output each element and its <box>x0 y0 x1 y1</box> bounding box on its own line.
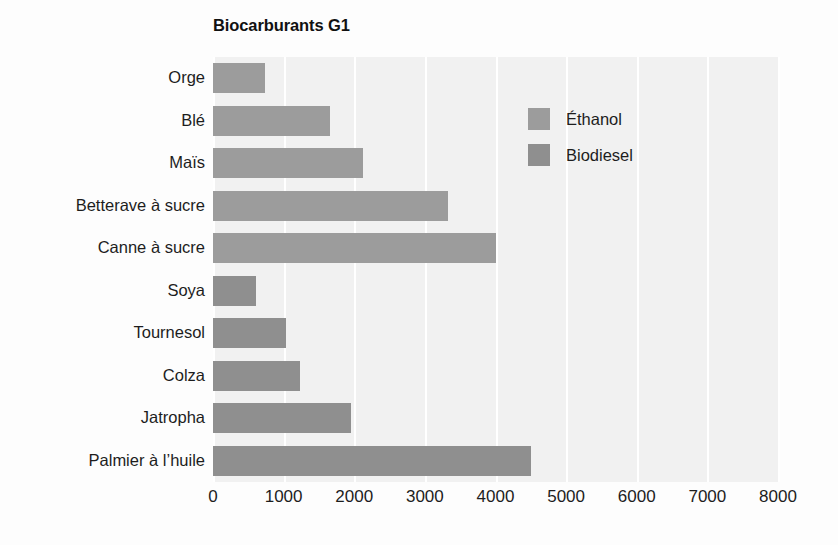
legend-swatch-icon <box>528 144 550 166</box>
legend-swatch-icon <box>528 108 550 130</box>
x-tick-label: 5000 <box>547 487 585 507</box>
x-tick-label: 8000 <box>759 487 797 507</box>
category-label: Blé <box>0 111 205 130</box>
bar <box>213 191 448 221</box>
bar <box>213 276 256 306</box>
x-tick-label: 2000 <box>335 487 373 507</box>
bar <box>213 106 330 136</box>
bar <box>213 403 351 433</box>
category-label: Soya <box>0 281 205 300</box>
category-label: Colza <box>0 366 205 385</box>
legend-label: Éthanol <box>566 110 622 129</box>
gridline <box>425 57 427 482</box>
bar <box>213 318 286 348</box>
bar <box>213 361 300 391</box>
gridline <box>496 57 498 482</box>
legend-item: Éthanol <box>528 104 633 134</box>
category-label: Palmier à l’huile <box>0 451 205 470</box>
category-label: Betterave à sucre <box>0 196 205 215</box>
gridline <box>637 57 639 482</box>
x-tick-label: 6000 <box>618 487 656 507</box>
x-tick-label: 0 <box>208 487 217 507</box>
x-tick-label: 7000 <box>688 487 726 507</box>
category-axis-labels: OrgeBléMaïsBetterave à sucreCanne à sucr… <box>0 57 205 482</box>
x-tick-label: 4000 <box>477 487 515 507</box>
chart-title: Biocarburants G1 <box>213 16 350 35</box>
category-label: Canne à sucre <box>0 238 205 257</box>
legend-item: Biodiesel <box>528 140 633 170</box>
category-label: Jatropha <box>0 408 205 427</box>
x-tick-label: 1000 <box>265 487 303 507</box>
category-label: Tournesol <box>0 323 205 342</box>
gridline <box>707 57 709 482</box>
gridline <box>354 57 356 482</box>
gridline <box>778 57 780 482</box>
plot-area <box>213 57 778 482</box>
x-axis-tick-labels: 010002000300040005000600070008000 <box>0 487 838 517</box>
category-label: Maïs <box>0 153 205 172</box>
bar <box>213 446 531 476</box>
chart-legend: ÉthanolBiodiesel <box>528 104 633 176</box>
bar <box>213 148 363 178</box>
x-tick-label: 3000 <box>406 487 444 507</box>
bar <box>213 233 496 263</box>
bar <box>213 63 265 93</box>
chart-figure: Biocarburants G1 OrgeBléMaïsBetterave à … <box>0 0 838 545</box>
category-label: Orge <box>0 68 205 87</box>
legend-label: Biodiesel <box>566 146 633 165</box>
